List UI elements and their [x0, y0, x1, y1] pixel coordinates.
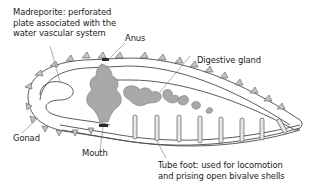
mouth-opening: [99, 124, 108, 127]
label-line: and prising open bivalve shells: [158, 171, 285, 182]
label-line: plate associated with the: [13, 18, 116, 29]
label-madreporite: Madreporite: perforated plate associated…: [13, 7, 116, 39]
label-tube-foot: Tube foot: used for locomotion and prisi…: [158, 160, 285, 181]
label-digestive-gland: Digestive gland: [197, 55, 261, 66]
label-gonad: Gonad: [13, 133, 40, 144]
digestive-gland: [87, 64, 213, 122]
label-anus: Anus: [125, 33, 145, 44]
label-line: Tube foot: used for locomotion: [158, 160, 285, 171]
label-mouth: Mouth: [82, 148, 108, 159]
label-line: Madreporite: perforated: [13, 7, 116, 18]
label-line: water vascular system: [13, 28, 116, 39]
madreporite-plate: [102, 58, 109, 61]
